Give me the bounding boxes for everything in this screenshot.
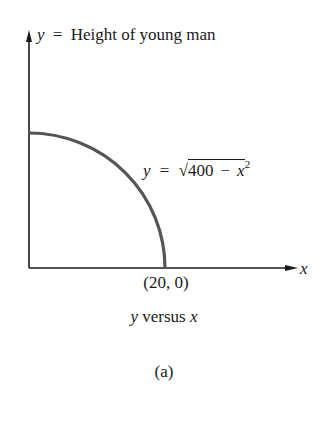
caption-var1: y <box>130 307 138 326</box>
caption-word: versus <box>142 307 185 326</box>
subfigure-label: (a) <box>155 363 174 380</box>
curve-label-eq: = <box>160 161 170 180</box>
y-axis-label-eq: = <box>53 25 63 44</box>
figure: y = Height of young man y = √400−x2 x (2… <box>0 0 328 433</box>
x-axis-label: x <box>300 260 308 277</box>
curve-equation-label: y = √400−x2 <box>143 159 250 179</box>
x-axis-arrow-icon <box>285 265 298 271</box>
caption: y versus x <box>130 308 197 325</box>
curve-quarter-circle <box>29 133 165 268</box>
radicand-minus: − <box>220 161 230 180</box>
radicand-var: x <box>237 161 245 180</box>
point-label: (20, 0) <box>143 274 188 291</box>
sqrt-icon: √ <box>179 161 188 180</box>
radicand-exponent: 2 <box>245 158 251 170</box>
y-axis-label: y = Height of young man <box>37 26 216 43</box>
caption-var2: x <box>190 307 198 326</box>
sqrt-expression: √400−x2 <box>179 159 250 179</box>
y-axis-label-text: Height of young man <box>71 25 216 44</box>
y-axis-arrow-icon <box>26 30 32 42</box>
y-axis-label-var: y <box>37 25 45 44</box>
radicand: 400−x <box>188 159 245 180</box>
curve-label-lhs: y <box>143 161 151 180</box>
radicand-number: 400 <box>188 161 214 180</box>
